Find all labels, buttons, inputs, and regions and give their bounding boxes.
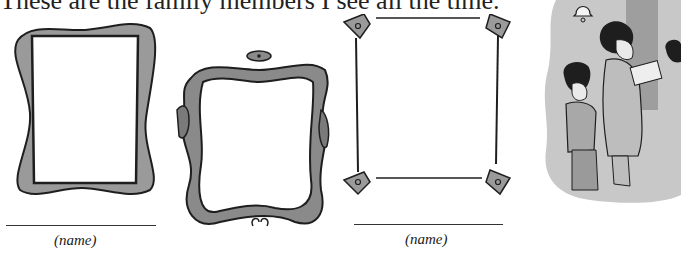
family-illustration bbox=[520, 0, 681, 210]
picture-frame-2 bbox=[175, 50, 335, 235]
picture-frame-3 bbox=[342, 14, 514, 199]
picture-frame-1 bbox=[10, 18, 160, 203]
name-line-1 bbox=[6, 225, 156, 226]
name-label-3: (name) bbox=[405, 231, 447, 248]
name-label-1: (name) bbox=[54, 232, 96, 249]
name-line-3 bbox=[354, 224, 503, 225]
